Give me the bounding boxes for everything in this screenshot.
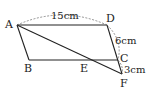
measure-CF: 3cm [124, 64, 146, 75]
label-E: E [80, 62, 88, 75]
segment-AF [17, 25, 122, 74]
label-F: F [120, 77, 128, 90]
geometry-diagram: A B E D C F 15cm 6cm 3cm [0, 0, 154, 97]
measure-DC: 6cm [115, 35, 137, 46]
label-D: D [106, 12, 115, 25]
segment-DF [107, 25, 122, 74]
measure-AD: 15cm [51, 10, 79, 21]
label-A: A [4, 18, 14, 31]
label-B: B [24, 62, 32, 75]
